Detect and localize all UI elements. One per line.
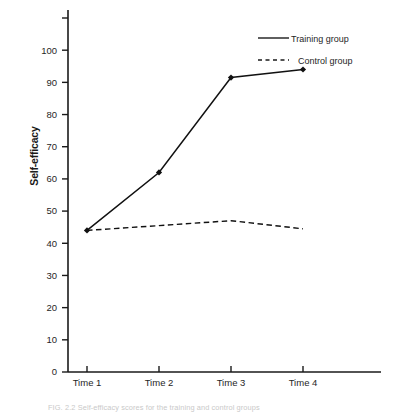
y-tick-label: 50 xyxy=(46,205,57,216)
y-tick-label: 70 xyxy=(46,141,57,152)
figure-caption: FIG. 2.2 Self-efficacy scores for the tr… xyxy=(48,403,388,415)
y-tick-label: 0 xyxy=(52,366,57,377)
series-line xyxy=(87,70,303,231)
line-chart-plot: 0102030405060708090100 Time 1Time 2Time … xyxy=(0,0,412,400)
y-tick-label: 30 xyxy=(46,270,57,281)
legend-label: Training group xyxy=(291,34,349,44)
y-tick-label: 90 xyxy=(46,77,57,88)
y-tick-label: 20 xyxy=(46,302,57,313)
chart-legend: Training groupControl group xyxy=(258,34,353,66)
data-point-marker xyxy=(300,66,306,72)
legend-label: Control group xyxy=(298,56,353,66)
y-tick-label: 60 xyxy=(46,173,57,184)
y-tick-label: 80 xyxy=(46,109,57,120)
data-series-layer xyxy=(84,66,306,233)
y-axis-title: Self-efficacy xyxy=(28,96,40,216)
x-tick-label: Time 1 xyxy=(73,377,102,388)
y-tick-label: 100 xyxy=(41,45,57,56)
chart-figure: Self-efficacy 0102030405060708090100 Tim… xyxy=(0,0,412,415)
x-tick-label: Time 4 xyxy=(289,377,318,388)
x-tick-label: Time 2 xyxy=(145,377,174,388)
x-axis-ticks: Time 1Time 2Time 3Time 4 xyxy=(73,366,318,388)
y-axis-ticks: 0102030405060708090100 xyxy=(41,18,68,377)
x-tick-label: Time 3 xyxy=(217,377,246,388)
series-line xyxy=(87,221,303,231)
y-tick-label: 40 xyxy=(46,238,57,249)
y-tick-label: 10 xyxy=(46,334,57,345)
